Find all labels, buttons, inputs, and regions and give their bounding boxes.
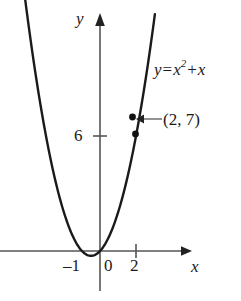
x-tick-label-zero: 0: [104, 257, 113, 274]
equation-exponent: 2: [181, 57, 187, 69]
y-axis-label: y: [76, 10, 84, 27]
equation-term: x: [198, 60, 206, 79]
x-tick-label-negative-one: –1: [63, 257, 80, 274]
parabola-curve: [24, 0, 155, 256]
equation-equals: =: [162, 60, 174, 79]
point-marker-upper: [129, 114, 136, 121]
equation-annotation: y=x2+x: [154, 59, 205, 78]
equation-lhs: y: [154, 60, 162, 79]
x-axis-label: x: [191, 258, 199, 275]
equation-base: x: [173, 60, 181, 79]
x-tick-label-two: 2: [130, 257, 139, 274]
plot-canvas: [0, 0, 241, 301]
point-marker-lower: [132, 131, 139, 138]
y-tick-label-6: 6: [74, 127, 83, 144]
math-graph-figure: y x 6 –1 0 2 y=x2+x (2, 7): [0, 0, 241, 301]
equation-plus: +: [186, 60, 198, 79]
point-coordinate-label: (2, 7): [163, 111, 200, 128]
